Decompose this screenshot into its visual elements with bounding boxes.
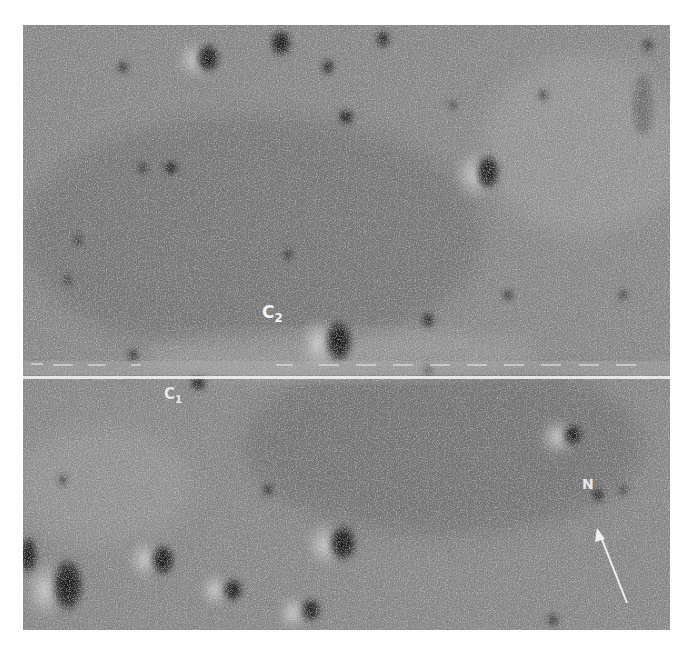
lunar-surface-photo: C2 C1 N: [23, 25, 670, 630]
label-c2-subscript: 2: [274, 311, 282, 325]
label-c1-letter: C: [164, 385, 175, 403]
label-c2-letter: C: [262, 302, 274, 322]
label-c2: C2: [262, 304, 283, 325]
label-north: N: [582, 477, 594, 491]
label-c1-subscript: 1: [175, 393, 182, 405]
label-c1: C1: [164, 387, 182, 404]
photo-canvas: [23, 25, 670, 630]
framelet-seam: [23, 361, 670, 379]
